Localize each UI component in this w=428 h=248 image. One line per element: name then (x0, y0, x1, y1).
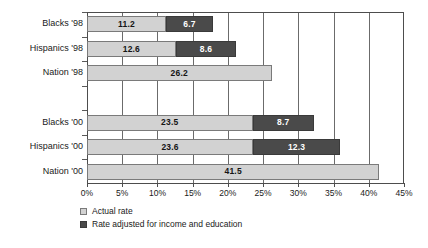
y-axis-tick (82, 135, 87, 136)
bar-segment-actual: 23.5 (87, 115, 253, 131)
bar-value-label: 8.7 (277, 118, 289, 127)
bar-segment-actual: 12.6 (87, 41, 176, 57)
bar-value-label: 26.2 (171, 69, 188, 78)
category-label: Blacks '98 (42, 19, 83, 28)
x-axis-tick-label: 20% (219, 189, 236, 198)
bar-segment-actual: 23.6 (87, 139, 253, 155)
bar-value-label: 11.2 (118, 20, 135, 29)
bar-row: 26.2 (87, 65, 404, 81)
x-axis-tick-label: 35% (325, 189, 342, 198)
x-axis-tick (404, 183, 405, 187)
bar-segment-adjusted: 8.6 (176, 41, 237, 57)
bar-segment-actual: 11.2 (87, 16, 166, 32)
x-axis-tick (193, 183, 194, 187)
x-axis-tick-label: 10% (149, 189, 166, 198)
category-label: Hispanics '00 (30, 142, 83, 151)
x-axis-tick-label: 15% (184, 189, 201, 198)
bar-segment-adjusted: 12.3 (253, 139, 340, 155)
x-axis-tick (263, 183, 264, 187)
x-axis-tick (87, 183, 88, 187)
bar-row: 41.5 (87, 164, 404, 180)
legend-label-adjusted: Rate adjusted for income and education (92, 220, 242, 229)
category-label: Nation '00 (43, 167, 83, 176)
bar-segment-adjusted: 8.7 (253, 115, 314, 131)
bar-row: 23.612.3 (87, 139, 404, 155)
y-axis-tick (82, 159, 87, 160)
bar-value-label: 23.5 (161, 118, 178, 127)
bar-row: 23.58.7 (87, 115, 404, 131)
bar-value-label: 6.7 (183, 20, 195, 29)
x-axis-tick (369, 183, 370, 187)
bars-layer: 11.26.712.68.626.223.58.723.612.341.5 (87, 12, 404, 184)
bar-value-label: 12.6 (123, 45, 140, 54)
x-axis-tick (334, 183, 335, 187)
bar-segment-actual: 41.5 (87, 164, 379, 180)
y-axis-tick (82, 61, 87, 62)
bar-segment-adjusted: 6.7 (166, 16, 213, 32)
bar-value-label: 12.3 (288, 143, 305, 152)
bar-value-label: 41.5 (225, 167, 242, 176)
bar-segment-actual: 26.2 (87, 65, 272, 81)
x-axis-tick (122, 183, 123, 187)
y-axis-tick (82, 37, 87, 38)
legend-swatch-icon-actual (80, 208, 87, 215)
y-axis-tick (82, 110, 87, 111)
legend-item-actual-rate: Actual rate (80, 206, 242, 217)
x-axis-tick-label: 40% (360, 189, 377, 198)
legend-label-actual: Actual rate (92, 207, 133, 216)
legend: Actual rate Rate adjusted for income and… (80, 206, 242, 232)
x-axis-tick-label: 0% (81, 189, 93, 198)
y-axis-tick (82, 12, 87, 13)
y-axis-tick (82, 86, 87, 87)
category-label: Blacks '00 (42, 118, 83, 127)
x-axis-tick-label: 25% (255, 189, 272, 198)
category-label: Nation '98 (43, 68, 83, 77)
legend-item-adjusted-rate: Rate adjusted for income and education (80, 219, 242, 230)
bar-row: 12.68.6 (87, 41, 404, 57)
x-axis-tick (157, 183, 158, 187)
bar-row: 11.26.7 (87, 16, 404, 32)
bar-value-label: 23.6 (161, 143, 178, 152)
stacked-bar-chart: 11.26.712.68.626.223.58.723.612.341.5 Bl… (0, 0, 428, 248)
x-axis-tick-label: 30% (290, 189, 307, 198)
category-label: Hispanics '98 (30, 44, 83, 53)
legend-swatch-icon-adjusted (80, 221, 87, 228)
x-axis-tick (228, 183, 229, 187)
x-axis-line (87, 183, 404, 184)
x-axis-tick-label: 5% (116, 189, 128, 198)
bar-value-label: 8.6 (200, 45, 212, 54)
x-axis-tick (298, 183, 299, 187)
x-axis-tick-label: 45% (395, 189, 412, 198)
